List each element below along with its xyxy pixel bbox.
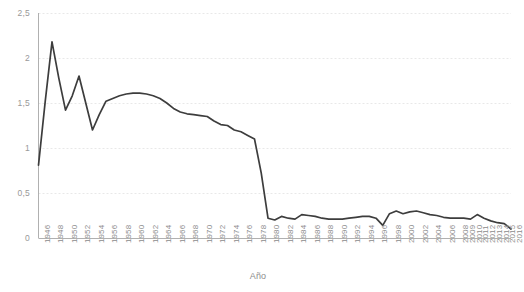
x-tick-label: 1966	[178, 225, 187, 243]
data-series-line	[39, 42, 512, 229]
x-tick-label: 1992	[353, 225, 362, 243]
y-tick-label: 2,5	[4, 8, 30, 18]
x-tick-label: 1996	[380, 225, 389, 243]
x-tick-label: 1990	[340, 225, 349, 243]
x-tick-label: 1956	[110, 225, 119, 243]
y-tick-label: 1,5	[4, 98, 30, 108]
y-tick-label: 0,5	[4, 188, 30, 198]
x-tick-label: 1982	[286, 225, 295, 243]
y-tick-label: 2	[4, 53, 30, 63]
x-tick-label: 1994	[367, 225, 376, 243]
x-tick-label: 1984	[299, 225, 308, 243]
x-tick-label: 1946	[43, 225, 52, 243]
gridlines	[39, 14, 512, 239]
x-tick-label: 1988	[326, 225, 335, 243]
x-tick-label: 1972	[218, 225, 227, 243]
x-tick-label: 1998	[394, 225, 403, 243]
x-tick-label: 1954	[97, 225, 106, 243]
x-tick-label: 1978	[259, 225, 268, 243]
y-tick-label: 0	[4, 233, 30, 243]
x-tick-label: 1976	[245, 225, 254, 243]
x-tick-label: 1962	[151, 225, 160, 243]
x-tick-label: 1986	[313, 225, 322, 243]
x-tick-label: 2004	[434, 225, 443, 243]
x-tick-label: 1964	[164, 225, 173, 243]
x-tick-label: 1960	[137, 225, 146, 243]
x-tick-label: 2006	[448, 225, 457, 243]
x-tick-label: 1974	[232, 225, 241, 243]
x-tick-label: 1958	[124, 225, 133, 243]
x-tick-label: 2002	[421, 225, 430, 243]
x-tick-label: 1948	[56, 225, 65, 243]
x-tick-label: 2000	[407, 225, 416, 243]
x-tick-label: 1968	[191, 225, 200, 243]
x-tick-label: 1950	[70, 225, 79, 243]
x-tick-label: 1970	[205, 225, 214, 243]
x-tick-label: 1952	[83, 225, 92, 243]
x-tick-label: 1980	[272, 225, 281, 243]
x-axis-title: Año	[0, 271, 516, 281]
y-tick-label: 1	[4, 143, 30, 153]
x-tick-label: 2016	[515, 225, 524, 243]
